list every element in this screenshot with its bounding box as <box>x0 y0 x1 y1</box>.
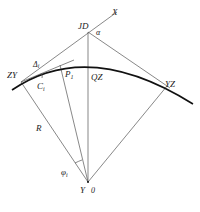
circular-curve-diagram: X JD α ZY Δi Ci P1 QZ YZ R φi Y 0 <box>0 0 200 212</box>
label-p-sub: 1 <box>71 74 74 80</box>
label-x: X <box>111 7 118 17</box>
center-point <box>87 181 89 183</box>
radius-line-zy-o <box>21 82 88 182</box>
label-r: R <box>35 123 42 133</box>
label-chord-sub: i <box>43 86 45 92</box>
label-zy: ZY <box>7 70 18 80</box>
label-o: 0 <box>91 186 95 195</box>
label-chord: Ci <box>37 81 45 92</box>
label-y: Y <box>80 185 86 195</box>
label-delta: Δi <box>32 60 40 69</box>
label-alpha: α <box>96 28 101 37</box>
label-jd: JD <box>78 21 89 31</box>
radius-line-p1-o <box>60 65 88 182</box>
label-phi-sub: i <box>66 172 68 178</box>
label-phi: φi <box>61 167 68 178</box>
label-yz: YZ <box>165 79 176 89</box>
phi-angle-arc <box>75 160 82 163</box>
label-p1: P1 <box>64 69 74 80</box>
radius-line-yz-o <box>88 86 167 182</box>
label-delta-sub: i <box>38 63 40 69</box>
label-qz: QZ <box>91 72 103 82</box>
